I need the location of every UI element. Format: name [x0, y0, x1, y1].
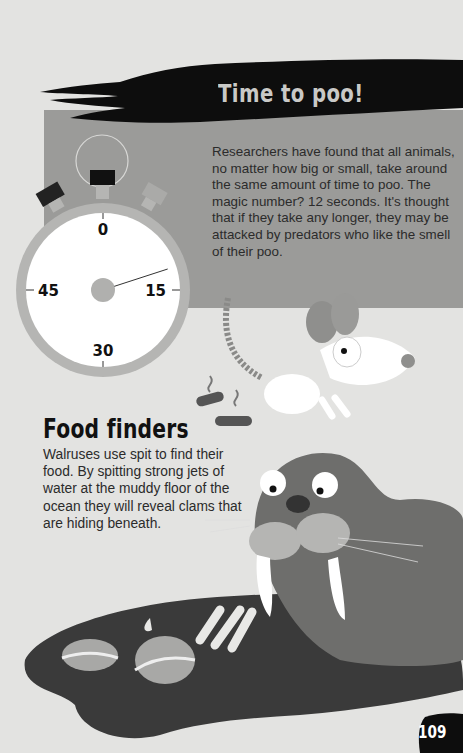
page-number: 109 [418, 722, 446, 742]
illustrations: 0 15 30 45 [0, 0, 463, 753]
book-page: 0 15 30 45 [0, 0, 463, 753]
section-title-food-finders: Food finders [43, 414, 189, 444]
stopwatch-label-30: 30 [93, 342, 114, 360]
stopwatch-label-15: 15 [145, 282, 166, 300]
stopwatch-top-button [90, 170, 115, 185]
stopwatch-label-0: 0 [98, 221, 108, 239]
section-title-time-to-poo: Time to poo! [218, 80, 364, 108]
stopwatch-illustration: 0 15 30 45 [16, 135, 190, 377]
stopwatch-label-45: 45 [38, 282, 59, 300]
stopwatch-hub [91, 278, 115, 302]
section-body-food-finders: Walruses use spit to find their food. By… [43, 446, 243, 532]
mouse-illustration [195, 293, 415, 426]
section-body-time-to-poo: Researchers have found that all animals,… [212, 144, 460, 260]
